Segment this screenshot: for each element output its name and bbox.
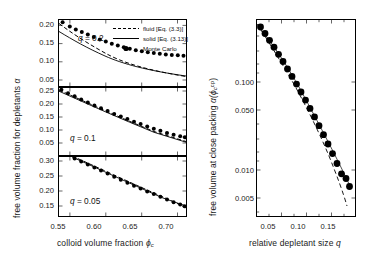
right-plot-markers	[257, 24, 353, 190]
left-plot-q02-ytick-2: 0.10	[28, 56, 54, 65]
left-plot-q01-ytick-0: 0.25	[28, 86, 54, 95]
right-plot-y-axis-subscript: c	[211, 87, 218, 90]
legend-item-fluid-label: fluid [Eq. (3.3)]	[143, 25, 183, 32]
left-plot-panel-q005	[58, 156, 187, 217]
legend-dashed-line-icon	[113, 24, 139, 33]
left-plot-y-axis-title: free volume fraction for depletants α	[12, 79, 22, 218]
right-plot-x-axis-symbol: q	[336, 238, 341, 248]
left-plot-q02-label: q = 0.2	[78, 33, 104, 43]
left-plot-legend: fluid [Eq. (3.3)] solid [Eq. (3.13)] Mon…	[113, 24, 188, 54]
right-plot-panel	[256, 19, 356, 217]
left-plot-q02-value: 0.2	[92, 33, 104, 43]
left-plot-q02-ytick-3: 0.05	[28, 75, 54, 84]
right-plot-y-axis-title: free volume at close packing α(ϕccp)	[208, 78, 218, 216]
left-plot-q02-ytick-0: 0.20	[28, 20, 54, 29]
left-plot-q005-value: 0.05	[84, 196, 100, 206]
right-plot-x-axis-title: relative depletant size q	[249, 238, 341, 248]
left-plot-q005-ytick-3: 0.15	[28, 201, 54, 210]
right-plot-y-axis-close-paren: )	[208, 78, 218, 81]
right-plot-ytick-1: 0.050	[222, 106, 254, 115]
legend-solid-line-icon	[113, 34, 139, 43]
left-plot-q01-ytick-3: 0.10	[28, 125, 54, 134]
left-plot-q01-ytick-2: 0.15	[28, 112, 54, 121]
right-plot-ytick-3: 0.005	[222, 194, 254, 203]
panel-q01-canvas	[59, 88, 186, 155]
left-plot-q01-value: 0.1	[84, 133, 96, 143]
panel-q01-markers	[59, 88, 186, 139]
left-plot-q01-ytick-1: 0.20	[28, 99, 54, 108]
legend-item-fluid: fluid [Eq. (3.3)]	[113, 24, 188, 33]
left-plot-xtick-3: 0.70	[153, 222, 179, 231]
right-plot-y-axis-symbol: α(ϕ	[208, 90, 218, 103]
right-plot-canvas	[257, 20, 355, 216]
left-plot-x-axis-title-text: colloid volume fraction	[57, 238, 143, 248]
legend-item-monte-carlo-label: Monte Carlo	[143, 45, 177, 52]
left-plot-panel-q01	[58, 87, 187, 156]
legend-item-monte-carlo: Monte Carlo	[113, 44, 188, 53]
left-plot-q02-ytick-1: 0.15	[28, 38, 54, 47]
figure-container: free volume fraction for depletants α co…	[0, 0, 366, 258]
left-plot-q01-label: q = 0.1	[70, 133, 96, 143]
left-plot-q005-ytick-1: 0.25	[28, 171, 54, 180]
legend-item-solid: solid [Eq. (3.13)]	[113, 34, 188, 43]
left-plot-y-axis-symbol: α	[12, 79, 22, 84]
left-plot-q005-ytick-0: 0.30	[28, 156, 54, 165]
left-plot-q005-ytick-2: 0.20	[28, 186, 54, 195]
left-plot-q01-ytick-4: 0.05	[28, 138, 54, 147]
legend-item-solid-label: solid [Eq. (3.13)]	[143, 35, 188, 42]
left-plot-x-axis-subscript: c	[151, 241, 154, 248]
right-plot-y-axis-title-text: free volume at close packing	[208, 105, 218, 216]
left-plot-x-axis-title: colloid volume fraction ϕc	[57, 238, 154, 248]
right-plot-xtick-2: 0.15	[315, 222, 341, 231]
right-plot-xtick-1: 0.10	[285, 222, 311, 231]
legend-filled-circle-icon	[113, 44, 139, 53]
right-plot-xtick-0: 0.05	[255, 222, 281, 231]
left-plot-y-axis-title-text: free volume fraction for depletants	[12, 86, 22, 218]
left-plot-xtick-2: 0.65	[117, 222, 143, 231]
left-plot-q005-label: q = 0.05	[70, 196, 100, 206]
right-plot-x-axis-title-text: relative depletant size	[249, 238, 334, 248]
right-plot-ytick-0: 0.100	[222, 78, 254, 87]
panel-q005-canvas	[59, 157, 186, 216]
left-plot-xtick-1: 0.60	[81, 222, 107, 231]
left-plot-xtick-0: 0.55	[45, 222, 71, 231]
right-plot-ytick-2: 0.010	[222, 166, 254, 175]
right-plot-y-axis-superscript: cp	[209, 81, 215, 87]
